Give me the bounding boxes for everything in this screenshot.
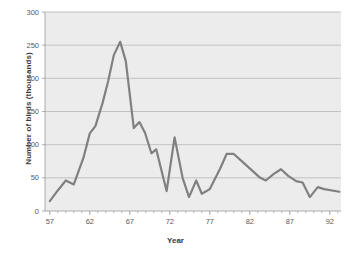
chart-figure: Number of birds (thousands) Year 0501001… bbox=[0, 0, 351, 256]
svg-text:200: 200 bbox=[26, 74, 39, 83]
svg-text:100: 100 bbox=[26, 140, 39, 149]
svg-text:62: 62 bbox=[86, 217, 94, 226]
svg-text:77: 77 bbox=[206, 217, 214, 226]
svg-text:0: 0 bbox=[35, 207, 39, 216]
y-axis-ticks: 050100150200250300 bbox=[26, 8, 45, 216]
svg-text:300: 300 bbox=[26, 8, 39, 17]
svg-text:87: 87 bbox=[286, 217, 294, 226]
svg-text:72: 72 bbox=[166, 217, 174, 226]
svg-text:92: 92 bbox=[326, 217, 334, 226]
line-chart-plot: 050100150200250300 5762677277828792 bbox=[0, 0, 351, 256]
svg-text:82: 82 bbox=[246, 217, 254, 226]
x-axis-ticks: 5762677277828792 bbox=[46, 211, 334, 226]
svg-text:57: 57 bbox=[46, 217, 54, 226]
svg-text:67: 67 bbox=[126, 217, 134, 226]
page-footer-fragment bbox=[8, 249, 338, 255]
svg-text:50: 50 bbox=[31, 173, 39, 182]
svg-text:150: 150 bbox=[26, 107, 39, 116]
svg-text:250: 250 bbox=[26, 41, 39, 50]
